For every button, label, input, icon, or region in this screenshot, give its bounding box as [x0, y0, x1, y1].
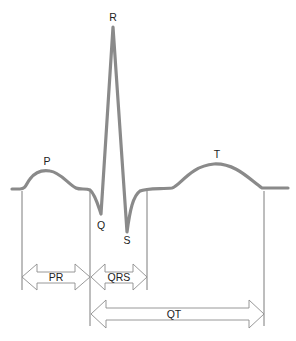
ecg-waveform	[12, 27, 288, 232]
ecg-diagram: P R Q S T PR QRS QT	[0, 0, 296, 341]
label-s-wave: S	[123, 234, 130, 246]
label-pr-interval: PR	[49, 271, 64, 283]
label-q-wave: Q	[97, 219, 105, 231]
label-qt-interval: QT	[167, 308, 182, 320]
label-qrs-interval: QRS	[108, 271, 131, 283]
label-p-wave: P	[43, 155, 50, 167]
label-t-wave: T	[214, 148, 221, 160]
label-r-wave: R	[109, 11, 117, 23]
